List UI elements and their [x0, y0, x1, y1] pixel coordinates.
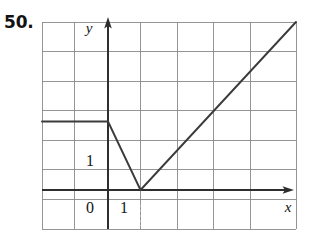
y-tick-label-one: 1 — [86, 152, 94, 169]
origin-label-zero: 0 — [86, 199, 94, 216]
figure-container: 50. — [0, 0, 318, 252]
graph-svg: y x 1 0 1 — [0, 0, 318, 252]
y-axis-label: y — [84, 20, 93, 36]
axis-labels: y x 1 0 1 — [84, 20, 292, 216]
grid-lines — [42, 22, 296, 229]
curve-segment-ascending — [141, 22, 297, 190]
x-tick-label-one: 1 — [120, 199, 128, 216]
graph-plot-area: y x 1 0 1 — [0, 0, 318, 252]
curve-segment-descending — [108, 122, 141, 191]
function-curve — [42, 22, 296, 190]
axes — [42, 17, 294, 229]
x-axis-label: x — [284, 199, 292, 215]
